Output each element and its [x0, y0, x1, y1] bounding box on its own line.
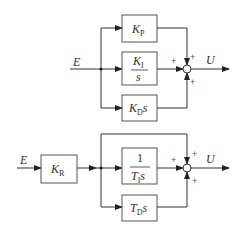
svg-text:KDs: KDs [128, 101, 148, 117]
ti-num: 1 [137, 151, 143, 165]
output-label-u-2: U [206, 152, 216, 166]
input-label-e: E [72, 55, 81, 69]
branch-dot [99, 67, 102, 70]
kr-sub: R [59, 169, 65, 178]
svg-text:KR: KR [50, 162, 65, 178]
kp-sub: P [140, 29, 145, 38]
ki-num-sub: I [141, 61, 144, 70]
td-suffix: s [142, 201, 147, 215]
input-label-e-2: E [19, 153, 28, 167]
sum-sign-left: + [171, 56, 176, 66]
sum-sign-bottom: + [190, 77, 195, 87]
branch-dot-2 [99, 166, 102, 169]
parallel-pid-diagram [70, 15, 229, 121]
svg-text:KP: KP [131, 22, 145, 38]
ti-den-suffix: s [140, 169, 145, 183]
sum-sign-left-2: + [171, 155, 176, 165]
sum-sign-bottom-2: + [192, 176, 197, 186]
svg-text:TDs: TDs [130, 201, 147, 217]
sum-sign-top: + [190, 52, 195, 62]
kd-suffix: s [143, 101, 148, 115]
sum-junction-2 [183, 164, 191, 172]
svg-text:TIs: TIs [131, 169, 145, 185]
pid-block-diagrams: E U KP KI s KDs + + + E U KR 1 TIs TDs +… [0, 0, 238, 234]
sum-sign-top-2: + [192, 149, 197, 159]
output-label-u: U [206, 53, 216, 67]
sum-junction [183, 65, 191, 73]
ki-den: s [136, 70, 141, 84]
svg-text:KI: KI [132, 54, 144, 70]
